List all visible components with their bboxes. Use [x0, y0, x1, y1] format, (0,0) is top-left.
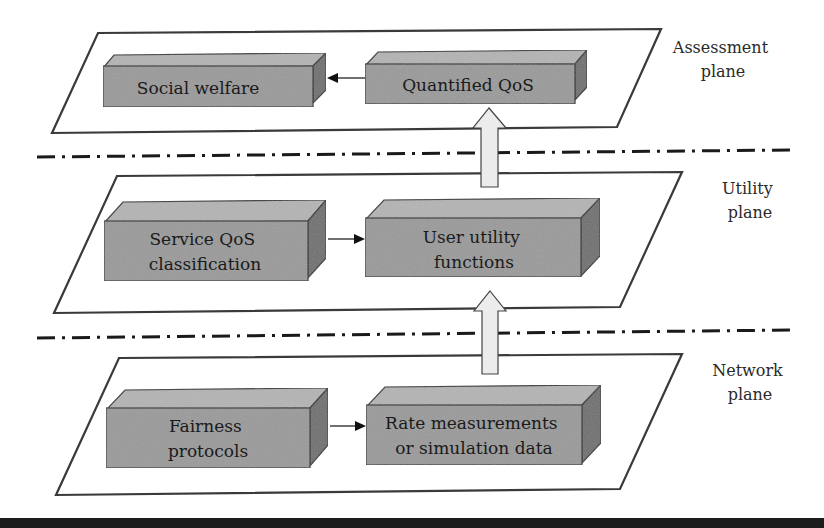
assessment-plane: Social welfare Quantified QoS Assessment…: [52, 29, 773, 133]
assessment-plane-label: Assessment plane: [672, 38, 773, 81]
layered-architecture-diagram: Social welfare Quantified QoS Assessment…: [0, 0, 824, 528]
plane-divider-2: [37, 330, 792, 338]
network-plane-label: Network plane: [712, 361, 788, 404]
utility-plane: Service QoS classification User utility …: [54, 172, 778, 313]
plane-divider-1: [37, 150, 792, 157]
box-social-welfare-label: Social welfare: [137, 78, 259, 98]
box-quantified-qos-label: Quantified QoS: [402, 75, 534, 95]
utility-plane-label: Utility plane: [722, 179, 778, 222]
network-plane: Fairness protocols Rate measurements or …: [56, 354, 788, 495]
bottom-rule: [0, 518, 824, 528]
